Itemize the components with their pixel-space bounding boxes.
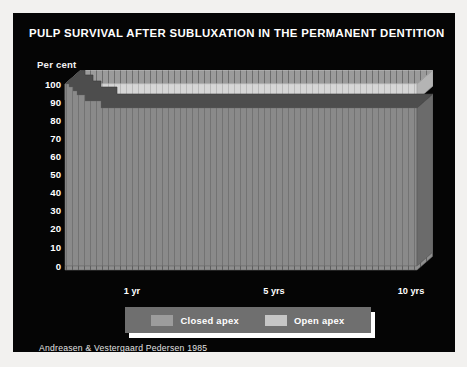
- x-tick-1yr: 1 yr: [124, 286, 140, 296]
- y-tick-100: 100: [27, 79, 61, 90]
- y-tick-60: 60: [27, 151, 61, 162]
- attribution-text: Andreasen & Vestergaard Pedersen 1985: [39, 343, 207, 352]
- series-closed-apex: [65, 70, 433, 266]
- x-tick-10yrs: 10 yrs: [398, 286, 425, 296]
- legend-swatch-open-apex: [265, 315, 287, 326]
- legend-label-open-apex: Open apex: [294, 315, 345, 326]
- chart-legend: Closed apex Open apex: [125, 307, 371, 333]
- y-tick-30: 30: [27, 205, 61, 216]
- y-axis-title: Per cent: [37, 59, 76, 70]
- y-tick-0: 0: [27, 261, 61, 272]
- legend-swatch-closed-apex: [151, 315, 173, 326]
- slide-canvas: PULP SURVIVAL AFTER SUBLUXATION IN THE P…: [13, 13, 455, 352]
- y-tick-20: 20: [27, 223, 61, 234]
- y-tick-70: 70: [27, 133, 61, 144]
- y-tick-40: 40: [27, 187, 61, 198]
- survival-chart-svg: [55, 70, 433, 282]
- y-tick-10: 10: [27, 242, 61, 253]
- page-title: PULP SURVIVAL AFTER SUBLUXATION IN THE P…: [29, 27, 441, 39]
- y-tick-50: 50: [27, 169, 61, 180]
- chart-plot-area: 100 90 80 70 60 50 40 30 20 10 0 1 yr 5 …: [55, 70, 433, 282]
- y-tick-90: 90: [27, 97, 61, 108]
- legend-label-closed-apex: Closed apex: [180, 315, 239, 326]
- y-tick-80: 80: [27, 115, 61, 126]
- legend-item-closed-apex: Closed apex: [151, 315, 239, 326]
- x-tick-5yrs: 5 yrs: [263, 286, 284, 296]
- legend-item-open-apex: Open apex: [265, 315, 345, 326]
